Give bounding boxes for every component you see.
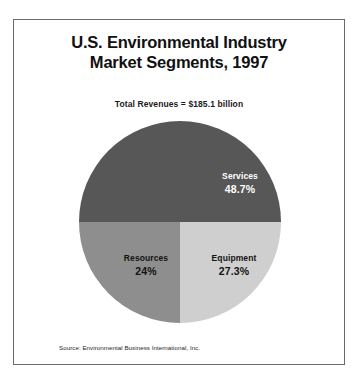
chart-title-line-1: U.S. Environmental Industry [14, 32, 344, 52]
pie-label-equipment-value: 27.3% [189, 265, 279, 277]
chart-title: U.S. Environmental Industry Market Segme… [14, 32, 344, 72]
pie-label-equipment-name: Equipment [189, 253, 279, 263]
pie-label-services-value: 48.7% [195, 183, 285, 195]
pie-label-resources-name: Resources [101, 253, 191, 263]
pie-label-services: Services 48.7% [195, 171, 285, 195]
pie-label-equipment: Equipment 27.3% [189, 253, 279, 277]
chart-title-line-2: Market Segments, 1997 [14, 52, 344, 72]
chart-subtitle: Total Revenues = $185.1 billion [14, 99, 344, 109]
pie-chart: Services 48.7% Resources 24% Equipment 2… [79, 121, 281, 323]
figure-frame: U.S. Environmental Industry Market Segme… [13, 19, 345, 365]
pie-chart-svg [79, 121, 281, 323]
pie-label-services-name: Services [195, 171, 285, 181]
pie-label-resources: Resources 24% [101, 253, 191, 277]
pie-label-resources-value: 24% [101, 265, 191, 277]
source-note: Source: Environmental Business Internati… [59, 344, 200, 351]
